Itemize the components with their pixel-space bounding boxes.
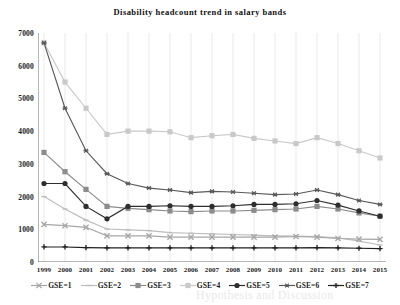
legend-label: GSE=5 [246, 281, 270, 290]
legend-item-gse-2[interactable]: GSE=2 [81, 281, 122, 290]
watermark-text: Hypothesis and Discussion [196, 288, 396, 303]
legend-marker-icon [31, 281, 47, 290]
plot-area [38, 33, 386, 262]
legend-label: GSE=2 [98, 281, 122, 290]
y-axis: 01000200030004000500060007000 [0, 33, 34, 262]
x-tick-label: 2002 [100, 266, 114, 274]
legend-marker-icon [130, 281, 146, 290]
x-tick-label: 2000 [58, 266, 72, 274]
legend-marker-icon [180, 281, 196, 290]
y-tick-label: 2000 [18, 192, 34, 201]
x-tick-label: 1999 [37, 266, 51, 274]
legend-marker-icon [229, 281, 245, 290]
legend-label: GSE=3 [147, 281, 171, 290]
plot-svg [38, 33, 386, 262]
x-tick-label: 2006 [184, 266, 198, 274]
y-tick-label: 3000 [18, 159, 34, 168]
y-tick-label: 6000 [18, 61, 34, 70]
x-tick-label: 2013 [331, 266, 345, 274]
x-tick-label: 2004 [142, 266, 156, 274]
x-tick-label: 2003 [121, 266, 135, 274]
y-tick-label: 0 [30, 258, 34, 267]
legend-item-gse-1[interactable]: GSE=1 [31, 281, 72, 290]
legend-item-gse-4[interactable]: GSE=4 [180, 281, 221, 290]
legend-item-gse-6[interactable]: GSE=6 [279, 281, 320, 290]
x-tick-label: 2014 [352, 266, 366, 274]
legend-label: GSE=7 [345, 281, 369, 290]
x-tick-label: 2008 [226, 266, 240, 274]
y-tick-label: 1000 [18, 225, 34, 234]
legend-marker-icon [81, 281, 97, 290]
x-tick-label: 2005 [163, 266, 177, 274]
legend-marker-icon [279, 281, 295, 290]
legend-item-gse-5[interactable]: GSE=5 [229, 281, 270, 290]
series-gse-7 [41, 244, 382, 251]
x-tick-label: 2001 [79, 266, 93, 274]
legend-marker-icon [328, 281, 344, 290]
legend-item-gse-7[interactable]: GSE=7 [328, 281, 369, 290]
chart-figure: Disability headcount trend in salary ban… [0, 0, 400, 305]
x-axis: 1999200020012002200320042005200620072008… [38, 266, 386, 278]
y-tick-label: 4000 [18, 127, 34, 136]
x-tick-label: 2012 [310, 266, 324, 274]
x-tick-label: 2007 [205, 266, 219, 274]
y-tick-label: 5000 [18, 94, 34, 103]
chart-legend: GSE=1GSE=2GSE=3GSE=4GSE=5GSE=6GSE=7 [0, 281, 400, 290]
chart-title: Disability headcount trend in salary ban… [0, 7, 400, 17]
legend-item-gse-3[interactable]: GSE=3 [130, 281, 171, 290]
x-tick-label: 2009 [247, 266, 261, 274]
y-tick-label: 7000 [18, 29, 34, 38]
legend-label: GSE=1 [48, 281, 72, 290]
x-tick-label: 2011 [289, 266, 303, 274]
grid-lines [44, 33, 380, 262]
x-tick-label: 2015 [373, 266, 387, 274]
x-tick-label: 2010 [268, 266, 282, 274]
legend-label: GSE=4 [197, 281, 221, 290]
legend-label: GSE=6 [296, 281, 320, 290]
